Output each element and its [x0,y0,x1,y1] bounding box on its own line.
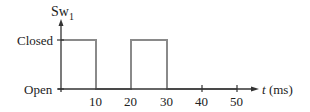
switch-state-waveform [61,40,237,89]
x-tick-label-10: 10 [89,95,102,108]
x-tick-label-20: 20 [124,95,137,108]
y-axis-label-subscript: 1 [69,11,74,22]
y-axis-label: Sw1 [51,5,74,22]
x-axis-unit: (ms) [269,82,293,97]
open-level-label: Open [24,83,52,96]
x-tick-label-50: 50 [230,95,243,108]
x-tick-label-30: 30 [160,95,173,108]
closed-level-label: Closed [17,34,53,47]
x-tick-label-40: 40 [195,95,208,108]
y-axis-label-text: Sw [51,4,69,19]
x-axis-label: t (ms) [262,83,293,96]
x-axis-var: t [262,82,266,97]
x-axis-arrow-icon [251,87,259,92]
